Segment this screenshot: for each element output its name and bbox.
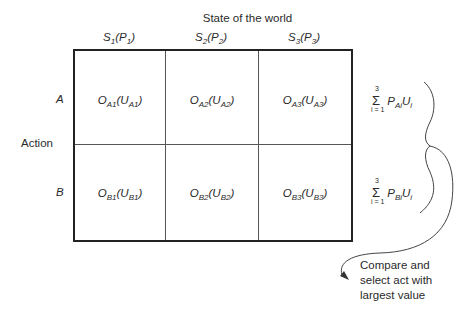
decision-note: Compare and select act with largest valu… xyxy=(360,258,432,303)
connector-curve xyxy=(341,146,452,275)
note-line: Compare and xyxy=(360,258,432,273)
note-line: largest value xyxy=(360,288,432,303)
brace-icon xyxy=(420,82,434,213)
note-line: select act with xyxy=(360,273,432,288)
